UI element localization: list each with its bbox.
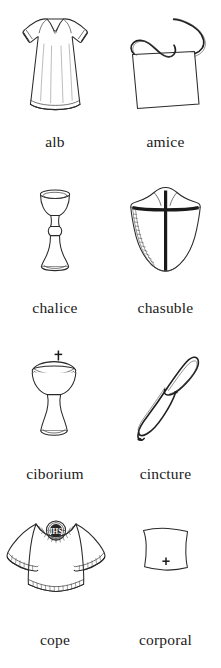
cope-illustration: IHS — [0, 502, 110, 626]
glossary-entry-cope: IHS cope — [0, 498, 110, 668]
glossary-grid: alb amice — [0, 0, 221, 668]
svg-text:IHS: IHS — [50, 528, 62, 536]
ciborium-illustration — [0, 336, 110, 460]
caption-alb: alb — [45, 134, 65, 150]
glossary-entry-chasuble: chasuble — [110, 166, 221, 332]
corporal-illustration — [110, 502, 221, 626]
caption-corporal: corporal — [139, 632, 192, 648]
glossary-entry-ciborium: ciborium — [0, 332, 110, 498]
amice-illustration — [110, 4, 221, 128]
glossary-entry-chalice: chalice — [0, 166, 110, 332]
caption-cope: cope — [40, 632, 70, 648]
caption-cincture: cincture — [140, 466, 192, 482]
glossary-entry-cincture: cincture — [110, 332, 221, 498]
chalice-illustration — [0, 170, 110, 294]
alb-illustration — [0, 4, 110, 128]
cincture-illustration — [110, 336, 221, 460]
caption-chasuble: chasuble — [138, 300, 194, 316]
caption-chalice: chalice — [32, 300, 77, 316]
glossary-entry-corporal: corporal — [110, 498, 221, 668]
caption-ciborium: ciborium — [26, 466, 84, 482]
glossary-entry-alb: alb — [0, 0, 110, 166]
glossary-entry-amice: amice — [110, 0, 221, 166]
caption-amice: amice — [146, 134, 184, 150]
chasuble-illustration — [110, 170, 221, 294]
